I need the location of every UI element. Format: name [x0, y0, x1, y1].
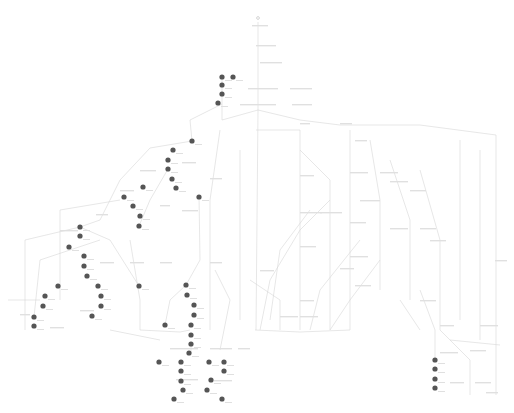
node-label	[168, 328, 175, 329]
edge-label	[280, 316, 298, 317]
edge-label	[300, 316, 318, 317]
edge-label	[430, 240, 446, 241]
edge-label	[210, 348, 232, 349]
edge	[165, 285, 186, 325]
node-label	[61, 289, 68, 290]
edge-label	[300, 123, 310, 124]
edge-label	[50, 327, 64, 328]
edge-label	[238, 348, 250, 349]
state-node	[95, 283, 100, 288]
edge	[139, 169, 168, 226]
edge-label	[290, 88, 312, 89]
edge-label	[480, 325, 498, 326]
edge-label	[475, 382, 491, 383]
state-node	[230, 74, 235, 79]
edge	[330, 260, 380, 330]
node-label	[197, 308, 204, 309]
edge-label	[240, 104, 276, 105]
edge-label	[160, 205, 170, 206]
start-node	[257, 17, 260, 20]
edge	[260, 200, 330, 330]
node-label	[90, 279, 97, 280]
state-node	[89, 313, 94, 318]
state-node	[219, 396, 224, 401]
edge-label	[120, 190, 134, 191]
edge	[270, 210, 310, 320]
node-label	[194, 338, 201, 339]
edge-label	[350, 222, 366, 223]
state-node	[136, 223, 141, 228]
state-node	[77, 224, 82, 229]
edge	[215, 270, 230, 350]
edge	[420, 170, 440, 330]
edge-label	[60, 230, 78, 231]
state-node	[191, 302, 196, 307]
edge-label	[292, 104, 312, 105]
node-label	[438, 391, 445, 392]
edge-label	[260, 270, 274, 271]
edge-label	[300, 175, 314, 176]
state-node	[432, 376, 437, 381]
edge	[400, 300, 420, 330]
node-label	[212, 365, 219, 366]
state-node	[165, 157, 170, 162]
state-node	[188, 332, 193, 337]
state-node	[219, 91, 224, 96]
node-label	[104, 299, 111, 300]
state-node	[170, 147, 175, 152]
node-label	[184, 384, 191, 385]
state-node	[121, 194, 126, 199]
node-label	[197, 318, 204, 319]
edge-label	[130, 262, 144, 263]
node-label	[83, 239, 90, 240]
edge	[370, 140, 380, 290]
state-node	[432, 385, 437, 390]
state-node	[98, 303, 103, 308]
node-label	[189, 288, 196, 289]
node-label	[194, 328, 201, 329]
edge-label	[182, 162, 196, 163]
edge	[60, 200, 120, 300]
state-node	[208, 377, 213, 382]
state-node	[189, 138, 194, 143]
node-label	[83, 230, 90, 231]
edge-label	[340, 268, 354, 269]
edge-label	[440, 352, 458, 353]
state-node	[156, 359, 161, 364]
edge-label	[450, 382, 464, 383]
state-node	[184, 292, 189, 297]
state-node	[178, 378, 183, 383]
node-label	[225, 97, 232, 98]
edge-label	[495, 260, 507, 261]
node-label	[225, 402, 232, 403]
edge-label	[380, 172, 398, 173]
edge-label	[470, 350, 486, 351]
edge	[210, 130, 220, 330]
nodes-layer	[31, 74, 445, 403]
node-label	[195, 144, 202, 145]
state-node	[40, 303, 45, 308]
node-label	[210, 393, 217, 394]
state-node	[191, 312, 196, 317]
node-label	[175, 182, 182, 183]
edge-label	[182, 210, 198, 211]
node-label	[438, 382, 445, 383]
node-label	[186, 393, 193, 394]
node-label	[171, 163, 178, 164]
edge-label	[340, 123, 352, 124]
state-node	[165, 166, 170, 171]
state-node	[204, 387, 209, 392]
node-label	[227, 374, 234, 375]
edge-label	[256, 45, 276, 46]
state-node	[215, 100, 220, 105]
node-label	[236, 80, 243, 81]
edge	[300, 150, 330, 330]
edge-label	[170, 348, 198, 349]
state-node	[162, 322, 167, 327]
node-label	[171, 172, 178, 173]
node-label	[87, 269, 94, 270]
node-label	[101, 289, 108, 290]
edge-label	[410, 190, 426, 191]
node-label	[127, 200, 134, 201]
edge-label	[214, 380, 232, 381]
